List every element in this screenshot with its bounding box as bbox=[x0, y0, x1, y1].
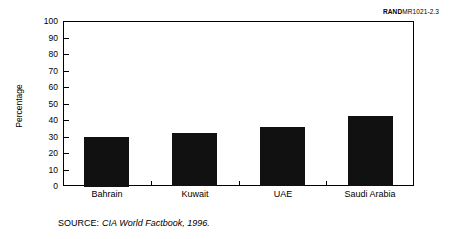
y-axis-tick-mark bbox=[64, 170, 69, 171]
bar bbox=[172, 133, 217, 186]
y-axis-tick-mark bbox=[64, 153, 69, 154]
source-note: SOURCE:CIA World Factbook, 1996. bbox=[58, 219, 210, 228]
y-axis-tick-label: 60 bbox=[32, 83, 58, 92]
x-axis-category-label: Kuwait bbox=[151, 190, 239, 199]
y-axis-tick-label: 100 bbox=[32, 17, 58, 26]
bar bbox=[348, 116, 393, 186]
y-axis-title-label: Percentage bbox=[13, 71, 25, 141]
y-axis-tick-label: 50 bbox=[32, 99, 58, 108]
y-axis-tick-label: 40 bbox=[32, 116, 58, 125]
source-title: CIA World Factbook, 1996. bbox=[99, 218, 210, 228]
y-axis-tick-mark bbox=[64, 38, 69, 39]
y-axis-tick-label: 90 bbox=[32, 33, 58, 42]
bar bbox=[84, 137, 129, 187]
y-axis-tick-label: 20 bbox=[32, 149, 58, 158]
x-axis-category-label: UAE bbox=[239, 190, 327, 199]
x-axis-category-label: Saudi Arabia bbox=[326, 190, 414, 199]
y-axis-tick-label: 70 bbox=[32, 66, 58, 75]
x-axis-tick-mark bbox=[151, 181, 152, 186]
x-axis-tick-mark bbox=[326, 181, 327, 186]
y-axis-tick-mark bbox=[64, 54, 69, 55]
bar bbox=[260, 127, 305, 186]
x-axis-tick-mark bbox=[239, 181, 240, 186]
y-axis-tick-mark bbox=[64, 71, 69, 72]
bar-chart: Percentage 1009080706050403020100 Bahrai… bbox=[0, 0, 450, 239]
y-axis-tick-mark bbox=[64, 120, 69, 121]
y-axis-title: Percentage bbox=[13, 71, 25, 141]
y-axis-tick-label: 0 bbox=[32, 182, 58, 191]
y-axis-tick-label: 10 bbox=[32, 165, 58, 174]
y-axis-tick-mark bbox=[64, 87, 69, 88]
source-label: SOURCE: bbox=[58, 218, 99, 228]
y-axis-tick-label: 80 bbox=[32, 50, 58, 59]
y-axis-tick-label: 30 bbox=[32, 132, 58, 141]
y-axis-tick-labels: 1009080706050403020100 bbox=[30, 0, 58, 239]
x-axis-category-label: Bahrain bbox=[63, 190, 151, 199]
y-axis-tick-mark bbox=[64, 137, 69, 138]
y-axis-tick-mark bbox=[64, 104, 69, 105]
